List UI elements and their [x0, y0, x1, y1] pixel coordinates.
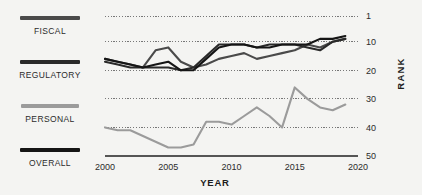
x-tick-label-2020: 2020	[348, 162, 368, 172]
y-tick-label-1: 1	[366, 11, 371, 21]
x-tick-label-2015: 2015	[285, 162, 305, 172]
x-axis-title: YEAR	[175, 177, 255, 188]
chart-svg: 1102030405020002005201020152020	[0, 0, 422, 195]
y-tick-label-40: 40	[366, 123, 376, 133]
chart-plot-area: 1102030405020002005201020152020	[0, 0, 422, 195]
y-tick-label-10: 10	[366, 37, 376, 47]
x-tick-label-2005: 2005	[158, 162, 178, 172]
y-tick-label-50: 50	[366, 151, 376, 161]
chart-figure: FISCALREGULATORYPERSONALOVERALL 11020304…	[0, 0, 422, 195]
y-axis-title: RANK	[395, 57, 406, 89]
series-line-overall	[105, 36, 345, 70]
x-tick-label-2010: 2010	[221, 162, 241, 172]
series-line-personal	[105, 87, 345, 147]
y-tick-label-20: 20	[366, 66, 376, 76]
y-tick-label-30: 30	[366, 94, 376, 104]
x-tick-label-2000: 2000	[95, 162, 115, 172]
